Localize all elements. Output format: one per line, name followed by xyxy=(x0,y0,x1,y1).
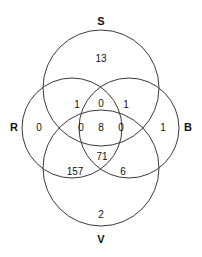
region-value-s-only: 13 xyxy=(95,53,107,64)
region-value-s-r: 1 xyxy=(74,99,80,110)
region-value-r-v: 157 xyxy=(67,166,84,177)
region-value-b-v: 6 xyxy=(120,166,126,177)
region-value-s-b-v: 0 xyxy=(118,122,124,133)
venn-diagram-canvas: SRBV 13012110080711576 xyxy=(0,0,202,257)
region-value-b-only: 1 xyxy=(160,122,166,133)
region-value-r-only: 0 xyxy=(36,122,42,133)
venn-diagram: SRBV 13012110080711576 xyxy=(0,0,202,257)
venn-region-values-group: 13012110080711576 xyxy=(36,53,166,220)
region-value-s-r-v: 0 xyxy=(78,122,84,133)
region-value-s-b: 1 xyxy=(123,99,129,110)
set-label-s: S xyxy=(97,15,104,27)
region-value-v-only: 2 xyxy=(98,209,104,220)
set-label-b: B xyxy=(184,121,192,133)
region-value-s-r-b-v: 8 xyxy=(98,122,104,133)
region-value-s-v: 71 xyxy=(96,151,108,162)
set-label-r: R xyxy=(10,121,18,133)
region-value-s-r-b: 0 xyxy=(98,98,104,109)
set-label-v: V xyxy=(97,233,105,245)
